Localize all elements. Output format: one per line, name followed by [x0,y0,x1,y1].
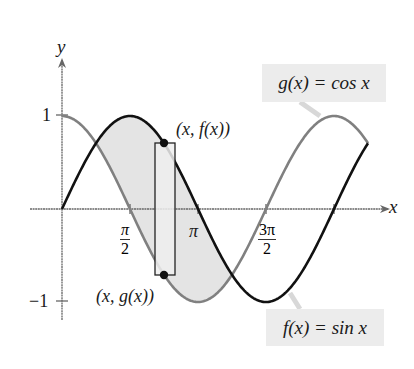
y-axis-label: y [57,37,65,56]
point-f-label: (x, f(x)) [176,120,230,138]
f-equation-label: f(x) = sin x [266,309,384,346]
point-g-dot [160,271,168,279]
x-tick-label-pi: π [189,222,198,240]
y-tick-label-neg1: −1 [29,292,48,310]
x-axis-label: x [389,197,397,216]
x-tick-label-3pi-over-2: 3π 2 [258,222,276,257]
point-f-dot [160,139,168,147]
f-callout-leader [290,293,300,309]
g-callout-leader [300,102,320,116]
representative-rectangle [155,143,175,275]
g-equation-label: g(x) = cos x [262,64,386,102]
point-g-label: (x, g(x)) [96,287,154,305]
x-tick-label-pi-over-2: π 2 [120,222,130,257]
y-tick-label-1: 1 [42,106,51,124]
